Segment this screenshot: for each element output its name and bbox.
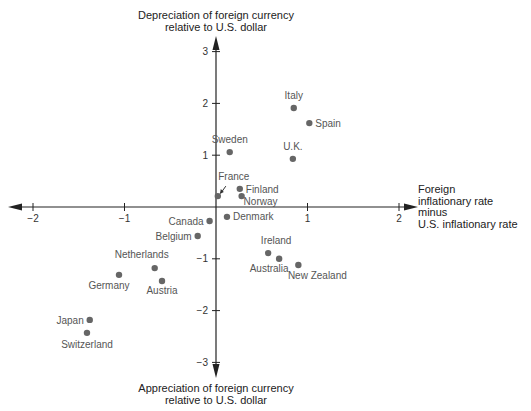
data-point-japan: Japan [56,315,92,326]
data-point-new-zealand: New Zealand [288,262,347,281]
point-label: Finland [246,184,279,195]
data-point-denmark: Denmark [224,211,275,222]
point-label: Ireland [261,235,292,246]
point-label: Japan [56,315,83,326]
dot-marker-icon [290,156,296,162]
dot-marker-icon [265,250,271,256]
dot-marker-icon [295,262,301,268]
data-point-italy: Italy [285,90,303,111]
point-label: Canada [169,216,204,227]
data-point-australia: Australia [250,256,289,274]
data-point-belgium: Belgium [156,231,201,242]
y-tick-label: −3 [197,357,209,368]
axes [8,36,418,378]
y-tick-label: 3 [202,46,208,57]
point-label: Austria [146,285,178,296]
dot-marker-icon [227,149,233,155]
dot-marker-icon [195,233,201,239]
point-label: Spain [315,118,341,129]
y-tick-label: 1 [202,150,208,161]
y-tick-label: 2 [202,98,208,109]
x-tick-label: −2 [27,213,39,224]
point-label: U.K. [283,141,302,152]
y-axis-up-arrow-icon [213,36,220,50]
point-label: Australia [250,263,289,274]
x-tick-label: −1 [119,213,131,224]
point-label: Denmark [233,211,275,222]
x-tick-label: 2 [396,213,402,224]
dot-marker-icon [84,330,90,336]
data-point-u-k: U.K. [283,141,302,162]
data-point-switzerland: Switzerland [61,330,113,350]
data-point-spain: Spain [306,118,341,129]
x-axis-right-arrow-icon [404,204,418,211]
point-label: Sweden [212,134,248,145]
point-label: Italy [285,90,303,101]
data-point-norway: Norway [238,193,277,207]
data-point-canada: Canada [169,216,213,227]
dot-marker-icon [159,278,165,284]
point-label: Norway [244,196,278,207]
y-tick-label: −1 [197,253,209,264]
data-point-sweden: Sweden [212,134,248,155]
data-point-austria: Austria [146,278,178,296]
dot-marker-icon [87,317,93,323]
dot-marker-icon [306,120,312,126]
y-tick-label: −2 [197,305,209,316]
point-label: Switzerland [61,339,113,350]
x-axis-left-arrow-icon [8,204,22,211]
data-point-netherlands: Netherlands [115,249,169,271]
data-point-ireland: Ireland [261,235,292,256]
x-tick-label: 1 [305,213,311,224]
dot-marker-icon [237,186,243,192]
point-label: Germany [88,280,129,291]
point-label: New Zealand [288,270,347,281]
dot-marker-icon [151,265,157,271]
dot-marker-icon [291,105,297,111]
point-label: Netherlands [115,249,169,260]
dot-marker-icon [224,214,230,220]
point-label: Belgium [156,231,192,242]
dot-marker-icon [276,256,282,262]
dot-marker-icon [206,218,212,224]
point-label: France [218,171,250,182]
scatter-plot: −2−112321−1−2−3 ItalySpainSwedenU.K.Fran… [0,0,531,411]
y-axis-down-arrow-icon [213,364,220,378]
dot-marker-icon [116,272,122,278]
data-point-germany: Germany [88,272,129,291]
